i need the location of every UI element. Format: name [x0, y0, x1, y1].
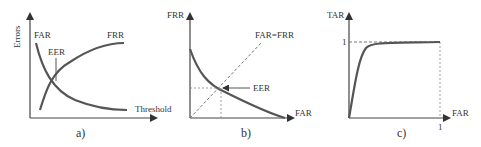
panel-c: TAR 1 FAR 1 c) [327, 10, 469, 140]
y-axis-label-b: FRR [167, 10, 184, 20]
frr-label: FRR [107, 30, 124, 40]
far-label: FAR [34, 30, 51, 40]
x-tick-one: 1 [438, 122, 443, 132]
det-curve [190, 49, 285, 118]
roc-curve [349, 42, 440, 118]
eer-label-b: EER [253, 83, 270, 93]
x-axis-label-c: FAR [452, 108, 469, 118]
biometric-error-figure: Errors FAR FRR EER Threshold a) FRR FAR=… [0, 0, 481, 147]
far-frr-diagonal [190, 42, 262, 118]
diagonal-label: FAR=FRR [255, 30, 294, 40]
panel-a: Errors FAR FRR EER Threshold a) [12, 14, 172, 140]
y-tick-one: 1 [342, 37, 347, 47]
x-axis-label-a: Threshold [135, 104, 172, 114]
x-axis-label-b: FAR [295, 108, 312, 118]
caption-c: c) [397, 126, 406, 140]
y-axis-label-a: Errors [12, 25, 22, 48]
panel-b: FRR FAR=FRR EER FAR b) [167, 10, 312, 140]
caption-a: a) [76, 126, 85, 140]
eer-label-a: EER [48, 47, 65, 57]
y-axis-label-c: TAR [327, 10, 344, 20]
caption-b: b) [241, 126, 251, 140]
